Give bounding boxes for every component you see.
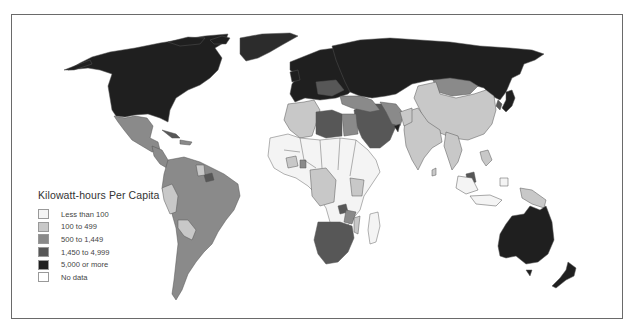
region-greenland: [240, 33, 298, 61]
legend-swatch: [38, 222, 49, 232]
legend-swatch: [38, 247, 49, 257]
map-legend: Kilowatt-hours Per Capita Less than 100 …: [38, 189, 160, 284]
legend-item-no-data: No data: [38, 271, 160, 284]
legend-swatch: [38, 234, 49, 244]
legend-label: 500 to 1,449: [61, 235, 103, 244]
legend-label: 5,000 or more: [61, 260, 108, 269]
legend-title: Kilowatt-hours Per Capita: [38, 189, 160, 201]
legend-label: Less than 100: [61, 210, 109, 219]
legend-label: 100 to 499: [61, 222, 97, 231]
legend-item-500-to-1449: 500 to 1,449: [38, 233, 160, 246]
region-madagascar: [368, 212, 380, 244]
legend-label: No data: [61, 273, 88, 282]
legend-swatch: [38, 272, 49, 282]
legend-swatch: [38, 209, 49, 219]
legend-swatch: [38, 260, 49, 270]
region-north-africa: [284, 100, 320, 138]
region-southern-africa: [314, 222, 354, 264]
legend-label: 1,450 to 4,999: [61, 248, 110, 257]
region-new-zealand: [552, 262, 576, 288]
legend-item-100-to-499: 100 to 499: [38, 221, 160, 234]
legend-item-less-than-100: Less than 100: [38, 208, 160, 221]
legend-item-5000-or-more: 5,000 or more: [38, 258, 160, 271]
region-south-america: [162, 157, 240, 300]
region-north-america: [68, 34, 228, 122]
legend-item-1450-to-4999: 1,450 to 4,999: [38, 246, 160, 259]
region-australia: [498, 206, 554, 264]
